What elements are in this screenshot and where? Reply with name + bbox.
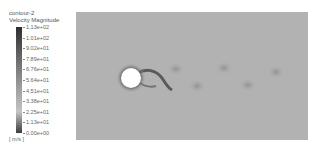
vortex xyxy=(215,61,233,75)
vortex xyxy=(239,78,257,92)
velocity-field xyxy=(76,12,308,140)
vortex xyxy=(188,79,206,93)
colorbar-tick: 1.01e+02 xyxy=(26,35,49,41)
colorbar-tick: 1.13e+01 xyxy=(26,119,49,125)
colorbar-tick: 9.02e+01 xyxy=(26,45,49,51)
contour-plot xyxy=(76,12,308,140)
colorbar-unit: [ m/s ] xyxy=(9,136,24,142)
colorbar-tick: 0.00e+00 xyxy=(26,130,49,136)
colorbar-tick: 5.64e+01 xyxy=(26,77,49,83)
colorbar-ticks: 1.13e+02 1.01e+02 9.02e+01 7.89e+01 6.76… xyxy=(26,24,71,136)
legend-title-line1: contour-2 xyxy=(9,10,59,17)
legend-title: contour-2 Velocity Magnitude xyxy=(9,10,59,24)
colorbar xyxy=(16,27,22,133)
colorbar-tick: 7.89e+01 xyxy=(26,56,49,62)
colorbar-tick: 2.25e+01 xyxy=(26,109,49,115)
colorbar-tick: 3.38e+01 xyxy=(26,98,49,104)
vortex xyxy=(267,65,285,79)
vortex xyxy=(167,62,185,76)
colorbar-tick: 1.13e+02 xyxy=(26,24,49,30)
legend-title-line2: Velocity Magnitude xyxy=(9,17,59,24)
colorbar-tick: 6.76e+01 xyxy=(26,66,49,72)
colorbar-tick: 4.51e+01 xyxy=(26,88,49,94)
cylinder xyxy=(121,68,141,88)
